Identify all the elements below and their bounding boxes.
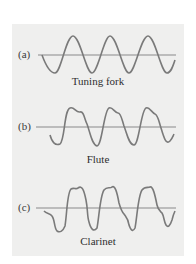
panel-a-caption: Tuning fork bbox=[0, 75, 196, 87]
panel-b-caption: Flute bbox=[0, 153, 196, 165]
panel-c-label: (c) bbox=[18, 201, 30, 213]
panel-c-caption: Clarinet bbox=[0, 235, 196, 247]
waveform-figure bbox=[0, 0, 196, 264]
panel-a-label: (a) bbox=[18, 48, 30, 60]
wave-clarinet bbox=[44, 187, 175, 232]
panel-b-label: (b) bbox=[18, 120, 31, 132]
